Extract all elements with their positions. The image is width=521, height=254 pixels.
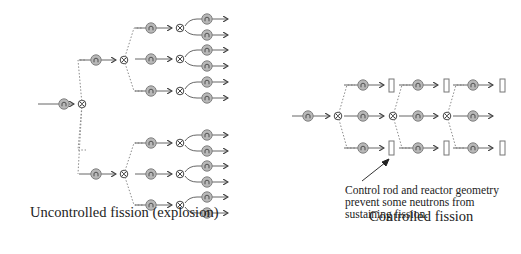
- uncontrolled-caption: Uncontrolled fission (explosion): [30, 204, 218, 221]
- neutron-icon: [59, 99, 69, 109]
- controlled-caption: Controlled fission: [369, 208, 473, 225]
- control-rod-icon: [389, 79, 394, 92]
- controlled-fission-chain: [292, 79, 505, 181]
- uncontrolled-fission-tree: [38, 14, 228, 218]
